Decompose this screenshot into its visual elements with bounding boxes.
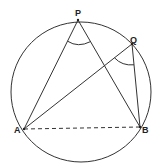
point-B xyxy=(139,126,141,128)
label-Q: Q xyxy=(130,35,137,45)
angle-arc-Q xyxy=(115,58,135,65)
circle-theorem-diagram: P Q A B xyxy=(0,0,157,166)
label-B: B xyxy=(142,125,149,135)
label-P: P xyxy=(75,8,81,18)
label-A: A xyxy=(14,125,21,135)
segment-AB-dashed xyxy=(24,127,140,129)
segment-QA xyxy=(24,44,132,129)
angle-arc-P xyxy=(68,41,91,45)
point-A xyxy=(23,128,25,130)
segment-PA xyxy=(24,20,78,129)
point-P xyxy=(77,19,79,21)
